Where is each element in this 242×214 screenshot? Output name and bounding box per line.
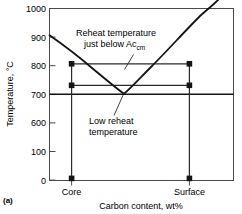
annotation-high-subscript: cm — [137, 44, 146, 51]
annotation-high-line1: Reheat temperature — [76, 28, 156, 38]
annotation-low-reheat: Low reheat temperature — [89, 116, 138, 137]
chart-canvas: 1000 900 800 700 600 100 0 Core Surface … — [0, 0, 242, 214]
annotation-low-line1: Low reheat — [89, 116, 134, 126]
y-tick-label: 900 — [31, 33, 46, 43]
annotation-high-line2: just below Ac — [83, 39, 137, 49]
svg-text:just below Accm: just below Accm — [83, 39, 145, 51]
figure-panel: 1000 900 800 700 600 100 0 Core Surface … — [0, 0, 242, 214]
y-axis-title: Temperature, °C — [5, 61, 15, 127]
x-axis-title: Carbon content, wt% — [99, 201, 183, 211]
y-tick-labels: 1000 900 800 700 600 100 0 — [26, 4, 46, 186]
y-tick-label: 1000 — [26, 4, 46, 14]
x-tick-label-core: Core — [62, 187, 82, 197]
x-tick-label-surface: Surface — [174, 187, 205, 197]
y-tick-label: 800 — [31, 61, 46, 71]
x-tick-labels: Core Surface — [62, 187, 205, 197]
y-tick-label: 700 — [31, 90, 46, 100]
y-tick-label: 600 — [31, 118, 46, 128]
y-tick-label: 100 — [31, 147, 46, 157]
x-tick-marks — [72, 181, 190, 186]
figure-caption: (a) — [3, 196, 13, 205]
y-tick-label: 0 — [41, 176, 46, 186]
annotation-low-line2: temperature — [89, 127, 138, 137]
